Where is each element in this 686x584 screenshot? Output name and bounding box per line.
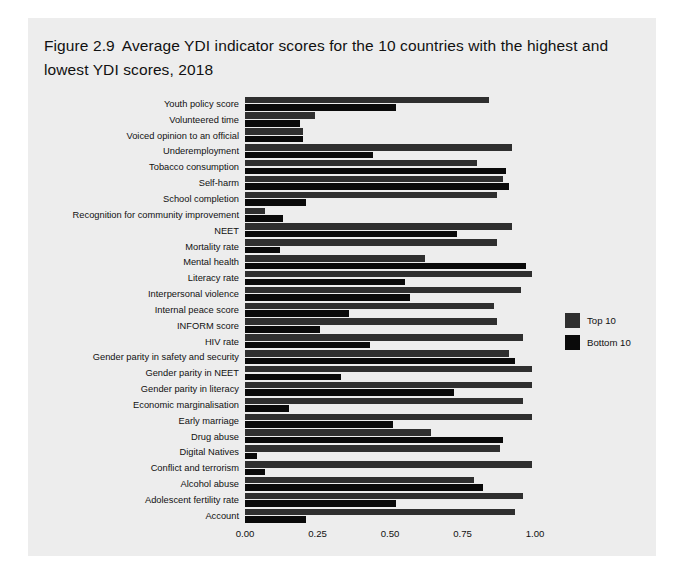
bar-top10 [245,112,315,118]
x-axis-tick-label: 0.50 [381,528,400,539]
chart-row: Underemployment [245,144,535,160]
bar-bottom10 [245,389,454,395]
x-axis-tick-label: 0.00 [236,528,255,539]
bar-bottom10 [245,469,265,475]
bar-bottom10 [245,263,526,269]
chart-row: Volunteered time [245,112,535,128]
y-axis-tick-label: Mortality rate [185,242,239,252]
legend-swatch [565,335,580,350]
bar-bottom10 [245,199,306,205]
bar-pair [245,413,535,429]
y-axis-tick-label: Youth policy score [164,99,239,109]
bar-bottom10 [245,374,341,380]
legend-entry: Top 10 [565,313,651,328]
chart-row: Digital Natives [245,445,535,461]
bar-pair [245,96,535,112]
chart-row: Literacy rate [245,270,535,286]
figure-title-text: Average YDI indicator scores for the 10 … [44,37,608,78]
bar-bottom10 [245,358,515,364]
y-axis-tick-label: INFORM score [177,321,239,331]
chart-row: Tobacco consumption [245,159,535,175]
bar-bottom10 [245,326,320,332]
chart-row: NEET [245,223,535,239]
bar-top10 [245,429,431,435]
y-axis-tick-label: Drug abuse [191,432,239,442]
y-axis-tick-label: Gender parity in safety and security [93,352,239,362]
y-axis-tick-label: Voiced opinion to an official [126,131,239,141]
chart-row: Mental health [245,254,535,270]
bar-bottom10 [245,437,503,443]
x-axis-tick-label: 1.00 [526,528,545,539]
bar-top10 [245,303,494,309]
plot-area: Youth policy scoreVolunteered timeVoiced… [28,88,656,556]
bar-top10 [245,334,523,340]
bar-pair [245,159,535,175]
bar-pair [245,508,535,524]
y-axis-tick-label: Self-harm [199,178,239,188]
legend-entry: Bottom 10 [565,335,651,350]
chart-legend: Top 10Bottom 10 [565,313,651,357]
bar-bottom10 [245,152,373,158]
y-axis-tick-label: Gender parity in literacy [141,384,239,394]
bar-pair [245,144,535,160]
chart-row: Economic marginalisation [245,397,535,413]
bar-pair [245,239,535,255]
y-axis-tick-label: Economic marginalisation [133,400,239,410]
legend-swatch [565,313,580,328]
bar-bottom10 [245,500,396,506]
y-axis-tick-label: Alcohol abuse [181,479,239,489]
bar-pair [245,492,535,508]
bar-bottom10 [245,516,306,522]
chart-row: Gender parity in literacy [245,381,535,397]
bar-bottom10 [245,453,257,459]
bar-bottom10 [245,104,396,110]
chart-row: Voiced opinion to an official [245,128,535,144]
chart-row: INFORM score [245,318,535,334]
bar-pair [245,207,535,223]
chart-row: Account [245,508,535,524]
y-axis-tick-label: School completion [163,194,239,204]
bar-top10 [245,509,515,515]
figure-title: Figure 2.9Average YDI indicator scores f… [44,34,624,82]
bar-top10 [245,414,532,420]
chart-row: Recognition for community improvement [245,207,535,223]
bar-top10 [245,350,509,356]
bar-pair [245,112,535,128]
y-axis-tick-label: Underemployment [163,146,239,156]
x-axis-tick-label: 0.75 [453,528,472,539]
chart-row: Gender parity in NEET [245,365,535,381]
y-axis-tick-label: Digital Natives [180,447,239,457]
y-axis-tick-label: Volunteered time [169,115,239,125]
y-axis-tick-label: Internal peace score [155,305,239,315]
bar-top10 [245,255,425,261]
bar-pair [245,223,535,239]
bar-top10 [245,287,521,293]
bar-pair [245,128,535,144]
bar-pair [245,476,535,492]
chart-row: Interpersonal violence [245,286,535,302]
y-axis-tick-label: HIV rate [205,337,239,347]
bar-bottom10 [245,247,280,253]
bar-pair [245,445,535,461]
bar-top10 [245,97,489,103]
chart-row: Drug abuse [245,429,535,445]
bar-top10 [245,382,532,388]
bar-pair [245,460,535,476]
bar-top10 [245,208,265,214]
bar-top10 [245,271,532,277]
y-axis-tick-label: Tobacco consumption [149,162,239,172]
bar-top10 [245,398,523,404]
figure-number: Figure 2.9 [44,37,115,54]
bar-bottom10 [245,231,457,237]
bar-top10 [245,223,512,229]
bar-top10 [245,239,497,245]
bar-pair [245,334,535,350]
bar-pair [245,350,535,366]
bar-pair [245,365,535,381]
bar-top10 [245,318,497,324]
chart-row: Early marriage [245,413,535,429]
bar-bottom10 [245,484,483,490]
bar-bottom10 [245,136,303,142]
bar-top10 [245,128,303,134]
y-axis-tick-label: Interpersonal violence [148,289,239,299]
